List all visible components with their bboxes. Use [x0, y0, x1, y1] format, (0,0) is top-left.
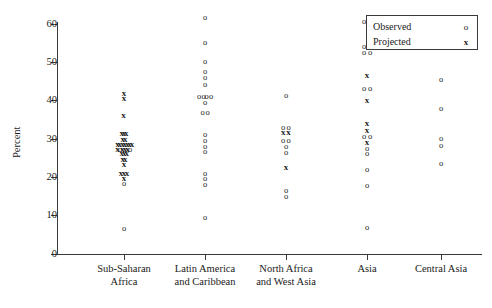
- data-point-observed: o: [435, 141, 447, 150]
- data-point-observed: o: [118, 179, 130, 188]
- data-point-observed: o: [361, 149, 373, 158]
- data-point-observed: o: [361, 165, 373, 174]
- y-tick-label: 50: [11, 57, 57, 68]
- data-point-observed: o: [199, 98, 211, 107]
- y-tick-label: 30: [11, 134, 57, 145]
- legend-label-projected: Projected: [373, 37, 411, 47]
- y-tick-label: 20: [11, 172, 57, 183]
- data-point-projected: x: [280, 163, 292, 172]
- data-point-observed: o: [435, 75, 447, 84]
- x-axis-label-4: Central Asia: [396, 263, 486, 276]
- data-point-observed: o: [199, 180, 211, 189]
- data-point-observed: o: [280, 148, 292, 157]
- cross-icon: x: [459, 37, 473, 47]
- x-tick-mark: [367, 254, 368, 260]
- data-point-projected: x: [118, 94, 130, 103]
- scatter-chart: Percent 0102030405060 Sub-Saharan Africa…: [0, 0, 492, 308]
- data-point-observed: o: [361, 181, 373, 190]
- y-tick-label: 0: [11, 249, 57, 260]
- x-tick-mark: [124, 254, 125, 260]
- x-axis-label-0: Sub-Saharan Africa: [79, 263, 169, 288]
- y-tick-label: 40: [11, 95, 57, 106]
- data-point-observed: o: [199, 13, 211, 22]
- data-point-observed: o: [280, 91, 292, 100]
- data-point-observed: o: [199, 213, 211, 222]
- data-point-observed: o: [280, 192, 292, 201]
- data-point-projected: x: [361, 96, 373, 105]
- y-tick-label: 60: [11, 19, 57, 30]
- data-point-observed: o: [435, 104, 447, 113]
- data-point-observed: o: [199, 80, 211, 89]
- data-point-observed: o: [199, 57, 211, 66]
- data-point-observed: o: [202, 108, 214, 117]
- legend: Observed o Projected x: [366, 15, 478, 50]
- legend-entry-projected: Projected x: [373, 35, 473, 49]
- x-tick-mark: [286, 254, 287, 260]
- x-tick-mark: [441, 254, 442, 260]
- x-axis-label-1: Latin America and Caribbean: [160, 263, 250, 288]
- legend-entry-observed: Observed o: [373, 20, 473, 34]
- data-point-observed: o: [199, 147, 211, 156]
- y-axis-line: [57, 22, 58, 255]
- legend-label-observed: Observed: [373, 22, 411, 32]
- data-point-observed: o: [199, 38, 211, 47]
- data-point-projected: x: [361, 71, 373, 80]
- data-point-observed: o: [361, 223, 373, 232]
- y-tick-label: 10: [11, 210, 57, 221]
- data-point-projected: x: [117, 111, 129, 120]
- data-point-observed: o: [435, 159, 447, 168]
- circle-icon: o: [459, 22, 473, 32]
- x-axis-line: [57, 254, 482, 255]
- x-tick-mark: [205, 254, 206, 260]
- data-point-observed: o: [118, 224, 130, 233]
- data-point-observed: o: [364, 84, 376, 93]
- x-axis-label-2: North Africa and West Asia: [241, 263, 331, 288]
